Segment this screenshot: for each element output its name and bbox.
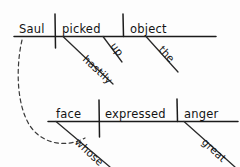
sentence-diagram: Saul picked object hastily up the face e…: [0, 0, 240, 167]
main-clause-group: Saul picked object hastily up the: [14, 14, 216, 86]
word-modifier-whose: whose: [73, 136, 106, 167]
word-verb-relative: expressed: [105, 107, 166, 121]
word-modifier-up: up: [108, 40, 126, 58]
word-object-relative: anger: [184, 107, 219, 121]
relative-verb-object-divider: [177, 99, 178, 122]
word-object-main: object: [130, 22, 167, 36]
relative-subject-verb-divider: [99, 100, 100, 137]
word-subject-relative: face: [56, 107, 81, 121]
verb-object-divider: [123, 14, 124, 37]
diagram-canvas: Saul picked object hastily up the face e…: [0, 0, 240, 167]
word-modifier-hastily: hastily: [81, 53, 116, 86]
relative-clause-connector-curve: [18, 40, 85, 143]
subject-verb-divider: [55, 14, 56, 48]
relative-clause-group: face expressed anger whose great: [48, 99, 238, 167]
word-subject-main: Saul: [19, 22, 45, 36]
word-verb-main: picked: [62, 22, 101, 36]
word-modifier-great: great: [200, 136, 229, 164]
word-modifier-the: the: [157, 43, 178, 64]
